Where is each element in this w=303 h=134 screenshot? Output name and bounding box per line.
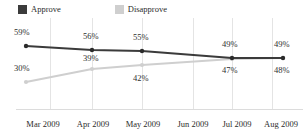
legend-swatch-approve (18, 5, 27, 14)
legend-label-approve: Approve (31, 5, 61, 14)
x-tick-may-2009: May 2009 (126, 114, 161, 134)
value-label-disapprove-apr: 39% (83, 54, 99, 63)
series-line-approve (26, 46, 283, 58)
chart-legend: Approve Disapprove (18, 2, 167, 16)
x-tick-jun-2009: Jun 2009 (178, 114, 209, 134)
x-tick-apr-2009: Apr 2009 (77, 114, 109, 134)
legend-swatch-disapprove (115, 5, 124, 14)
legend-item-disapprove[interactable]: Disapprove (115, 5, 167, 14)
value-label-disapprove-jul: 47% (222, 66, 238, 75)
value-label-approve-mar: 59% (14, 28, 30, 37)
value-label-approve-apr: 56% (83, 32, 99, 41)
value-label-disapprove-aug: 48% (274, 66, 290, 75)
value-label-disapprove-mar: 30% (14, 64, 30, 73)
x-tick-mar-2009: Mar 2009 (26, 114, 59, 134)
series-markers-disapprove (24, 56, 285, 84)
plot-area: 59% 56% 55% 49% 49% 30% 39% 42% 47% 48% (0, 18, 303, 112)
legend-item-approve[interactable]: Approve (18, 5, 61, 14)
value-label-approve-jun: 55% (133, 33, 149, 42)
x-axis: Mar 2009 Apr 2009 May 2009 Jun 2009 Jul … (0, 114, 303, 134)
value-label-approve-aug: 49% (274, 40, 290, 49)
value-label-approve-jul: 49% (222, 40, 238, 49)
value-label-disapprove-jun: 42% (133, 74, 149, 83)
x-tick-aug-2009: Aug 2009 (264, 114, 298, 134)
x-tick-jul-2009: Jul 2009 (222, 114, 251, 134)
approval-rating-line-chart: Approve Disapprove (0, 0, 303, 134)
series-line-disapprove (26, 58, 283, 82)
legend-label-disapprove: Disapprove (128, 5, 167, 14)
